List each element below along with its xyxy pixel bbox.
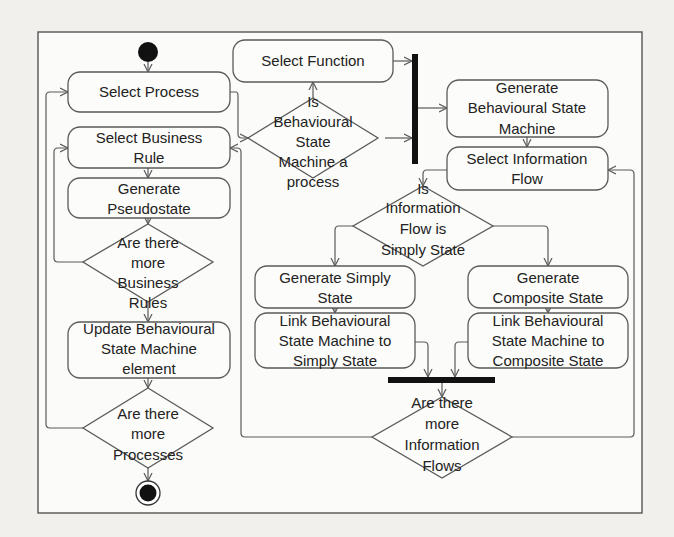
action-generate-simply-state[interactable]: Generate Simply State: [255, 266, 415, 308]
svg-text:Select Function: Select Function: [261, 52, 364, 69]
svg-text:Composite State: Composite State: [493, 352, 604, 369]
svg-text:Behavioural State: Behavioural State: [468, 99, 586, 116]
action-generate-bsm[interactable]: Generate Behavioural State Machine: [447, 79, 608, 137]
svg-text:Information: Information: [404, 436, 479, 453]
node-label: Are there: [117, 405, 179, 422]
svg-text:Are there: Are there: [411, 394, 473, 411]
node-label: Rules: [129, 294, 167, 311]
node-label: Is: [307, 93, 319, 110]
node-label: Simply State: [293, 352, 377, 369]
svg-text:Simply State: Simply State: [381, 241, 465, 258]
svg-text:Processes: Processes: [113, 446, 183, 463]
svg-text:State Machine to: State Machine to: [492, 332, 605, 349]
node-label: Link Behavioural: [493, 312, 604, 329]
svg-text:Generate: Generate: [118, 180, 181, 197]
svg-text:Behavioural: Behavioural: [273, 113, 352, 130]
action-select-function[interactable]: Select Function: [233, 40, 393, 82]
svg-text:Are there: Are there: [117, 234, 179, 251]
svg-text:Generate: Generate: [496, 79, 559, 96]
node-label: State Machine: [101, 340, 197, 357]
svg-text:Information: Information: [385, 199, 460, 216]
action-generate-pseudostate[interactable]: Generate Pseudostate: [68, 178, 230, 218]
action-update-bsm-element[interactable]: Update Behavioural State Machine element: [68, 320, 230, 378]
join-bar-horizontal: [388, 377, 495, 383]
svg-text:Generate Simply: Generate Simply: [279, 269, 391, 286]
node-label: Select Process: [99, 83, 199, 100]
svg-text:Generate: Generate: [517, 269, 580, 286]
svg-text:State: State: [317, 289, 352, 306]
node-label: Machine: [499, 120, 556, 137]
node-label: Select Information: [467, 150, 588, 167]
node-label: Composite State: [493, 289, 604, 306]
action-link-bsm-composite-state[interactable]: Link Behavioural State Machine to Compos…: [468, 312, 628, 369]
svg-text:Select Process: Select Process: [99, 83, 199, 100]
svg-text:Machine a: Machine a: [278, 153, 348, 170]
node-label: Flows: [422, 457, 461, 474]
node-label: Generate: [496, 79, 559, 96]
node-label: Information: [404, 436, 479, 453]
node-label: Generate: [517, 269, 580, 286]
svg-text:Rules: Rules: [129, 294, 167, 311]
node-label: Rule: [134, 149, 165, 166]
svg-text:Rule: Rule: [134, 149, 165, 166]
node-label: Update Behavioural: [83, 320, 215, 337]
svg-text:more: more: [131, 425, 165, 442]
action-select-business-rule[interactable]: Select Business Rule: [68, 127, 230, 168]
node-label: Is: [417, 180, 429, 197]
action-select-process[interactable]: Select Process: [68, 72, 230, 112]
node-label: Select Function: [261, 52, 364, 69]
svg-text:Machine: Machine: [499, 120, 556, 137]
node-label: Pseudostate: [107, 200, 190, 217]
final-node: [136, 481, 160, 505]
svg-text:more: more: [131, 254, 165, 271]
svg-text:Select Information: Select Information: [467, 150, 588, 167]
svg-text:Flow is: Flow is: [400, 220, 447, 237]
svg-text:Pseudostate: Pseudostate: [107, 200, 190, 217]
svg-text:Composite State: Composite State: [493, 289, 604, 306]
node-label: Generate Simply: [279, 269, 391, 286]
node-label: element: [122, 360, 176, 377]
node-label: Composite State: [493, 352, 604, 369]
svg-text:Link Behavioural: Link Behavioural: [280, 312, 391, 329]
node-label: more: [131, 254, 165, 271]
action-link-bsm-simply-state[interactable]: Link Behavioural State Machine to Simply…: [255, 312, 415, 369]
node-label: Behavioural State: [468, 99, 586, 116]
node-label: Select Business: [96, 129, 203, 146]
svg-text:process: process: [287, 173, 340, 190]
node-label: Information: [385, 199, 460, 216]
svg-text:Update Behavioural: Update Behavioural: [83, 320, 215, 337]
fork-bar-vertical: [412, 54, 418, 164]
activity-diagram: Select Process Select Business Rule Gene…: [0, 0, 674, 537]
svg-text:State Machine to: State Machine to: [279, 332, 392, 349]
svg-text:Simply State: Simply State: [293, 352, 377, 369]
action-select-information-flow[interactable]: Select Information Flow: [447, 147, 608, 190]
node-label: Machine a: [278, 153, 348, 170]
svg-text:State: State: [295, 133, 330, 150]
svg-text:Is: Is: [307, 93, 319, 110]
svg-text:Business: Business: [118, 274, 179, 291]
node-label: Behavioural: [273, 113, 352, 130]
node-label: Processes: [113, 446, 183, 463]
node-label: Are there: [411, 394, 473, 411]
svg-text:Flow: Flow: [511, 170, 543, 187]
node-label: Are there: [117, 234, 179, 251]
svg-text:more: more: [425, 415, 459, 432]
node-label: Generate: [118, 180, 181, 197]
initial-node: [138, 42, 158, 62]
node-label: more: [131, 425, 165, 442]
node-label: Link Behavioural: [280, 312, 391, 329]
node-label: State: [295, 133, 330, 150]
svg-text:element: element: [122, 360, 176, 377]
node-label: process: [287, 173, 340, 190]
node-label: State Machine to: [492, 332, 605, 349]
action-generate-composite-state[interactable]: Generate Composite State: [468, 266, 628, 308]
node-label: State: [317, 289, 352, 306]
svg-text:Flows: Flows: [422, 457, 461, 474]
node-label: Business: [118, 274, 179, 291]
svg-text:Is: Is: [417, 180, 429, 197]
node-label: Flow: [511, 170, 543, 187]
node-label: more: [425, 415, 459, 432]
svg-text:Link Behavioural: Link Behavioural: [493, 312, 604, 329]
node-label: Simply State: [381, 241, 465, 258]
svg-text:State Machine: State Machine: [101, 340, 197, 357]
